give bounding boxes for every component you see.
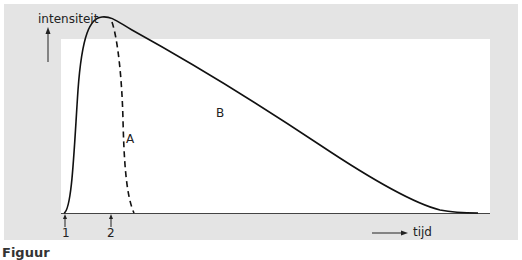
figure-caption: Figuur xyxy=(2,245,50,260)
curve-a-label: A xyxy=(126,132,134,146)
marker-2-label: 2 xyxy=(107,226,115,240)
curve-b-label: B xyxy=(216,106,224,120)
marker-1-label: 1 xyxy=(62,226,70,240)
curve-a xyxy=(112,22,134,213)
marker-2-arrowhead-icon xyxy=(109,214,113,219)
y-axis-label: intensiteit xyxy=(38,12,98,26)
y-axis-arrowhead-icon xyxy=(46,27,51,34)
marker-1-arrowhead-icon xyxy=(63,214,67,219)
x-axis-arrowhead-icon xyxy=(401,231,408,236)
x-axis-label: tijd xyxy=(413,225,432,239)
